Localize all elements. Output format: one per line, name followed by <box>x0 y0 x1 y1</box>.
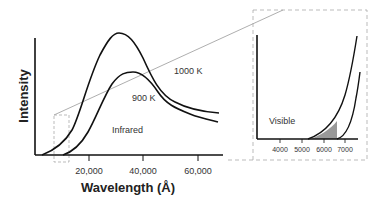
inset-tick-label: 5000 <box>294 146 310 153</box>
zoom-connector-line <box>54 10 283 115</box>
x-axis-label: Wavelength (Å) <box>81 180 175 195</box>
label-1000k: 1000 K <box>174 66 203 76</box>
x-tick-label: 20,000 <box>75 166 103 176</box>
inset-tick-label: 7000 <box>337 146 353 153</box>
inset-tick-label: 6000 <box>316 146 332 153</box>
label-900k: 900 K <box>132 93 156 103</box>
label-infrared: Infrared <box>112 125 143 135</box>
x-tick-label: 40,000 <box>129 166 157 176</box>
label-visible: Visible <box>269 116 295 126</box>
y-axis-label: Intensity <box>16 69 31 123</box>
blackbody-chart: 1000 K 900 K Infrared 20,000 40,000 60,0… <box>0 0 389 204</box>
x-tick-label: 60,000 <box>184 166 212 176</box>
curve-900k <box>63 72 218 155</box>
inset-tick-label: 4000 <box>272 146 288 153</box>
